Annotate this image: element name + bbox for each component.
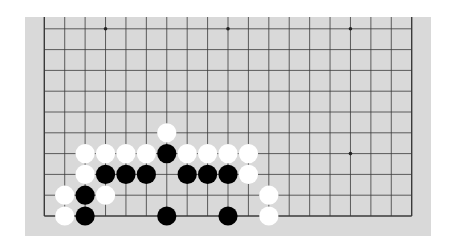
- black-stone[interactable]: [157, 144, 176, 163]
- white-stone[interactable]: [259, 186, 278, 205]
- black-stone[interactable]: [178, 165, 197, 184]
- white-stone[interactable]: [239, 144, 258, 163]
- white-stone[interactable]: [55, 186, 74, 205]
- white-stone[interactable]: [55, 206, 74, 225]
- white-stone[interactable]: [178, 144, 197, 163]
- star-point: [349, 27, 353, 31]
- white-stone[interactable]: [259, 206, 278, 225]
- white-stone[interactable]: [76, 144, 95, 163]
- star-point: [104, 27, 108, 31]
- white-stone[interactable]: [239, 165, 258, 184]
- black-stone[interactable]: [76, 186, 95, 205]
- black-stone[interactable]: [76, 206, 95, 225]
- black-stone[interactable]: [96, 165, 115, 184]
- black-stone[interactable]: [137, 165, 156, 184]
- black-stone[interactable]: [157, 206, 176, 225]
- black-stone[interactable]: [218, 165, 237, 184]
- star-point: [226, 27, 230, 31]
- go-board-grid[interactable]: [25, 17, 431, 236]
- white-stone[interactable]: [96, 186, 115, 205]
- white-stone[interactable]: [157, 123, 176, 142]
- white-stone[interactable]: [218, 144, 237, 163]
- white-stone[interactable]: [76, 165, 95, 184]
- white-stone[interactable]: [198, 144, 217, 163]
- go-board[interactable]: [25, 17, 431, 236]
- white-stone[interactable]: [96, 144, 115, 163]
- black-stone[interactable]: [116, 165, 135, 184]
- black-stone[interactable]: [198, 165, 217, 184]
- star-point: [349, 152, 353, 156]
- black-stone[interactable]: [218, 206, 237, 225]
- white-stone[interactable]: [116, 144, 135, 163]
- white-stone[interactable]: [137, 144, 156, 163]
